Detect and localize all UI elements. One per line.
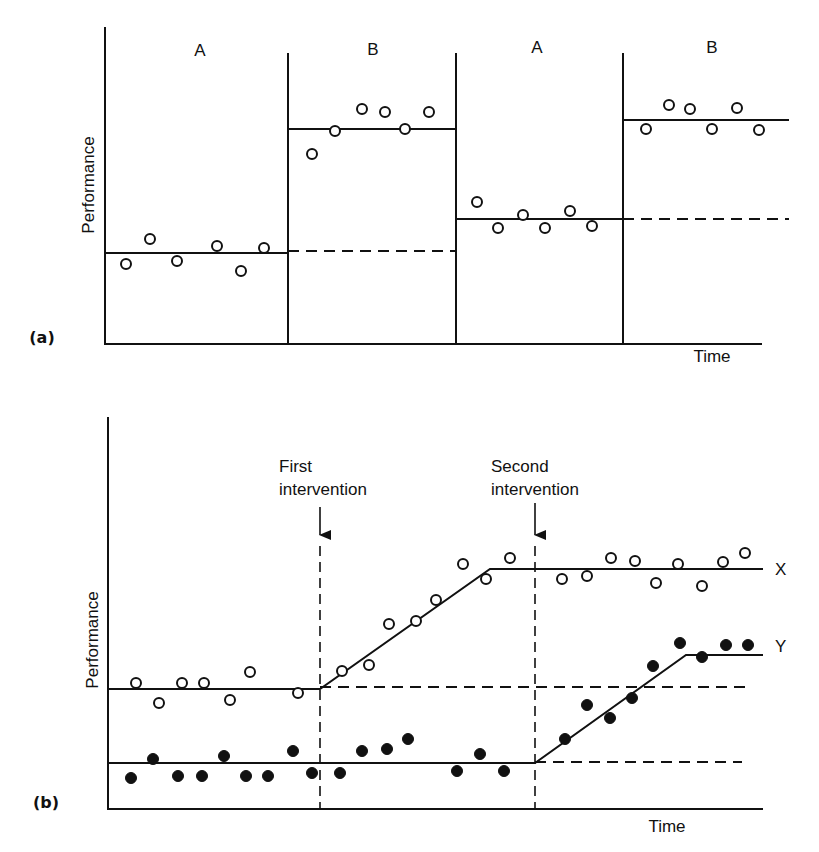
data-point-y xyxy=(357,746,368,757)
phase-means-a xyxy=(105,120,789,253)
data-point-x xyxy=(740,548,750,558)
data-point-y xyxy=(605,713,616,724)
x-axis-label-a: Time xyxy=(693,347,730,366)
data-point-x xyxy=(225,695,235,705)
data-point-x xyxy=(364,660,374,670)
phase-label-b2: B xyxy=(706,38,717,57)
data-point-y xyxy=(173,771,184,782)
data-point-y xyxy=(148,754,159,765)
data-point-y xyxy=(627,693,638,704)
data-point-y xyxy=(475,749,486,760)
first-intervention-label-line2: intervention xyxy=(279,480,367,499)
data-point xyxy=(587,221,597,231)
chart-a: A B A B Performance Time (a) xyxy=(29,27,789,366)
points-a xyxy=(121,100,764,276)
data-point-y xyxy=(452,766,463,777)
data-point xyxy=(424,107,434,117)
data-point xyxy=(707,124,717,134)
data-point xyxy=(493,223,503,233)
data-point-y xyxy=(307,768,318,779)
data-point xyxy=(518,210,528,220)
data-point-y xyxy=(582,700,593,711)
data-point-y xyxy=(263,771,274,782)
x-axis-label-b: Time xyxy=(648,817,685,836)
phase-label-a1: A xyxy=(194,41,206,60)
data-point xyxy=(400,124,410,134)
second-intervention-label-line1: Second xyxy=(491,457,549,476)
data-point-x xyxy=(718,557,728,567)
data-point-y xyxy=(675,638,686,649)
data-point-y xyxy=(648,661,659,672)
data-point-x xyxy=(177,678,187,688)
data-point xyxy=(145,234,155,244)
data-point xyxy=(172,256,182,266)
data-point-x xyxy=(606,553,616,563)
data-point-y xyxy=(743,640,754,651)
data-point-x xyxy=(651,578,661,588)
second-intervention-label-line2: intervention xyxy=(491,480,579,499)
phase-label-b1: B xyxy=(367,40,378,59)
data-point xyxy=(540,223,550,233)
data-point xyxy=(380,107,390,117)
data-point-y xyxy=(499,766,510,777)
data-point-x xyxy=(384,619,394,629)
data-point xyxy=(732,103,742,113)
data-point-x xyxy=(131,678,141,688)
data-point xyxy=(754,125,764,135)
data-point-y xyxy=(560,734,571,745)
data-point-y xyxy=(288,746,299,757)
data-point xyxy=(664,100,674,110)
data-point xyxy=(330,126,340,136)
data-point xyxy=(236,266,246,276)
data-point-y xyxy=(335,768,346,779)
data-point-x xyxy=(245,667,255,677)
data-point xyxy=(641,124,651,134)
phase-label-a2: A xyxy=(531,38,543,57)
data-point-y xyxy=(697,652,708,663)
data-point xyxy=(472,197,482,207)
figure: A B A B Performance Time (a) First inter… xyxy=(0,0,819,852)
data-point-x xyxy=(481,574,491,584)
data-point-x xyxy=(557,574,567,584)
data-point-x xyxy=(293,688,303,698)
data-point-y xyxy=(241,771,252,782)
data-point-y xyxy=(382,744,393,755)
y-axis-label-a: Performance xyxy=(79,136,98,233)
data-point-y xyxy=(197,771,208,782)
data-point-x xyxy=(673,559,683,569)
data-point-x xyxy=(431,595,441,605)
chart-b: First intervention Second intervention X… xyxy=(33,417,786,836)
data-point-x xyxy=(697,581,707,591)
data-point-y xyxy=(126,773,137,784)
data-point-x xyxy=(199,678,209,688)
trend-line-y xyxy=(108,655,763,763)
data-point xyxy=(121,259,131,269)
data-point-y xyxy=(721,640,732,651)
series-label-x: X xyxy=(775,560,786,579)
data-point xyxy=(685,104,695,114)
series-label-y: Y xyxy=(775,637,786,656)
data-point-x xyxy=(154,698,164,708)
data-point-x xyxy=(505,553,515,563)
data-point-x xyxy=(582,571,592,581)
data-point-y xyxy=(219,751,230,762)
panel-label-b: (b) xyxy=(33,793,59,812)
data-point-y xyxy=(403,734,414,745)
data-point xyxy=(307,149,317,159)
data-point-x xyxy=(458,559,468,569)
data-point-x xyxy=(630,556,640,566)
data-point xyxy=(259,243,269,253)
first-intervention-label-line1: First xyxy=(279,457,312,476)
data-point xyxy=(565,206,575,216)
points-b xyxy=(126,548,754,784)
y-axis-label-b: Performance xyxy=(83,591,102,688)
data-point xyxy=(212,241,222,251)
panel-label-a: (a) xyxy=(29,328,54,347)
data-point-x xyxy=(411,616,421,626)
data-point xyxy=(357,104,367,114)
data-point-x xyxy=(337,666,347,676)
